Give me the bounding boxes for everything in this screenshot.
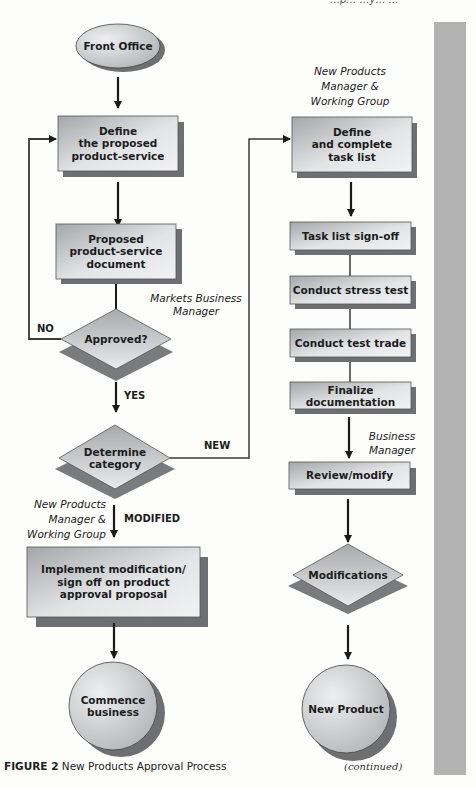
- determine-category-line-1: Determine: [84, 446, 146, 459]
- task-signoff-label: Task list sign-off: [290, 222, 411, 250]
- define-proposed-label: Define the proposed product-service: [58, 116, 178, 171]
- annotation-line: Manager: [146, 305, 246, 318]
- review-modify-label: Review/modify: [289, 462, 410, 489]
- define-proposed-line-2: the proposed: [79, 137, 158, 150]
- proposed-doc-line-2: product-service: [70, 245, 163, 258]
- annotation-line: New Products: [14, 497, 106, 512]
- define-task-line-3: task list: [328, 151, 375, 164]
- finalize-doc-label: Finalize documentation: [290, 382, 411, 409]
- annotation-line: Manager &: [14, 512, 106, 527]
- annotation-line: Working Group: [305, 94, 395, 109]
- annotation-line: Manager: [362, 443, 422, 457]
- define-task-line-1: Define: [333, 126, 371, 139]
- determine-category-line-2: category: [89, 458, 141, 471]
- figure-caption: FIGURE 2 New Products Approval Process: [4, 760, 226, 772]
- annotation-line: New Products: [305, 64, 395, 79]
- proposed-doc-line-1: Proposed: [88, 233, 144, 246]
- test-trade-label: Conduct test trade: [290, 329, 411, 357]
- annotation-line: Manager &: [305, 79, 395, 94]
- determine-category-label: Determine category: [65, 444, 165, 472]
- annotation-line: Working Group: [14, 527, 106, 542]
- figure-number: FIGURE 2: [4, 760, 58, 772]
- define-proposed-line-3: product-service: [72, 150, 165, 163]
- stress-test-label: Conduct stress test: [290, 276, 411, 304]
- modifications-label: Modifications: [298, 567, 398, 583]
- new-product-label: New Product: [301, 701, 391, 717]
- implement-mod-line-3: approval proposal: [60, 588, 167, 601]
- annotation-line: Markets Business: [146, 292, 246, 305]
- edge-label-new: NEW: [204, 440, 230, 451]
- edge-label-modified: MODIFIED: [124, 513, 180, 524]
- define-task-label: Define and complete task list: [292, 117, 412, 172]
- implement-mod-line-2: sign off on product: [57, 576, 169, 589]
- finalize-doc-line-2: documentation: [306, 396, 395, 408]
- annotation-line: Business: [362, 429, 422, 443]
- front-office-label: Front Office: [78, 38, 158, 54]
- edge-label-no: NO: [37, 323, 54, 334]
- continued-note: (continued): [344, 761, 402, 772]
- commence-line-2: business: [87, 706, 139, 719]
- proposed-doc-line-3: document: [87, 258, 146, 271]
- business-manager-annotation: Business Manager: [362, 429, 422, 457]
- approved-label: Approved?: [66, 331, 166, 347]
- implement-mod-label: Implement modification/ sign off on prod…: [27, 547, 200, 617]
- markets-business-manager-annotation: Markets Business Manager: [146, 292, 246, 318]
- implement-mod-line-1: Implement modification/: [41, 563, 186, 576]
- finalize-doc-line-1: Finalize: [328, 384, 374, 396]
- figure-title: New Products Approval Process: [62, 760, 227, 772]
- npm-right-annotation: New Products Manager & Working Group: [305, 64, 395, 109]
- commence-label: Commence business: [73, 692, 153, 720]
- commence-line-1: Commence: [81, 694, 146, 707]
- define-proposed-line-1: Define: [99, 125, 137, 138]
- edge-label-yes: YES: [124, 390, 145, 401]
- proposed-doc-label: Proposed product-service document: [56, 224, 176, 279]
- npm-left-annotation: New Products Manager & Working Group: [14, 497, 106, 542]
- define-task-line-2: and complete: [312, 138, 393, 151]
